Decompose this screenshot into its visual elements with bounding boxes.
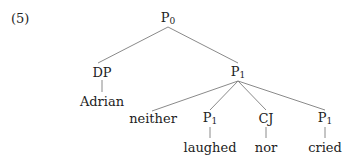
leaf-laughed: laughed	[184, 141, 237, 154]
tree-edges	[0, 0, 351, 160]
leaf-cried: cried	[308, 141, 342, 154]
node-cj: CJ	[258, 112, 273, 125]
leaf-adrian: Adrian	[80, 95, 124, 108]
node-p1: P1	[231, 65, 245, 80]
node-p0: P0	[161, 11, 175, 26]
edge-p1-p1a	[210, 81, 238, 110]
edge-p1-p1b	[238, 81, 325, 110]
edge-p1-neither	[152, 81, 238, 111]
node-p1-cried: P1	[318, 111, 332, 126]
leaf-nor: nor	[255, 141, 277, 154]
example-number: (5)	[11, 11, 29, 26]
edge-p0-p1	[168, 27, 238, 63]
leaf-neither: neither	[129, 112, 177, 125]
node-p1-laughed: P1	[203, 111, 217, 126]
edge-p0-dp	[98, 27, 168, 63]
node-dp: DP	[92, 66, 111, 79]
